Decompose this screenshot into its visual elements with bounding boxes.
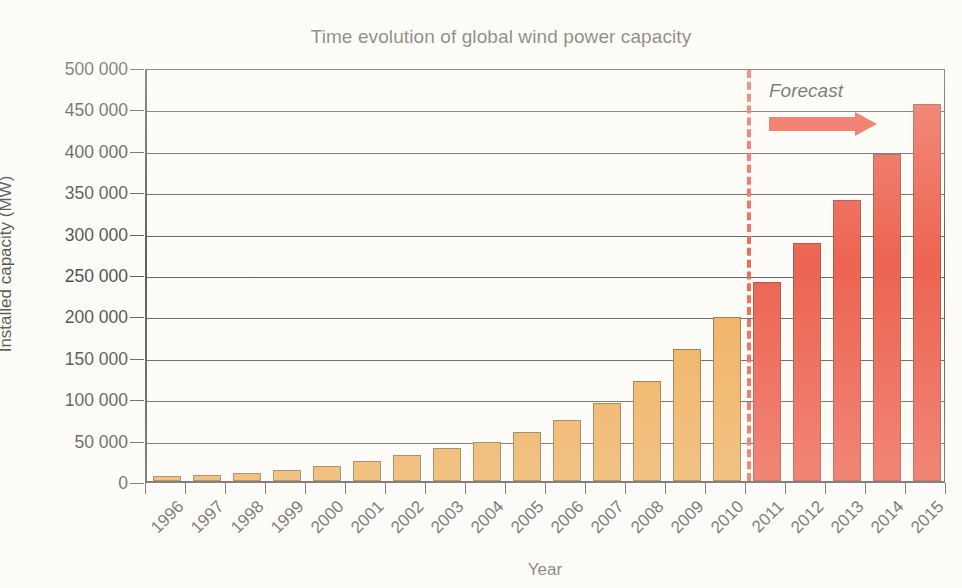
y-axis-tick-label: 100 000 <box>65 390 128 411</box>
x-axis-tick-label-1999: 1999 <box>267 497 308 538</box>
bar-1997 <box>193 475 221 481</box>
bar-1996 <box>153 476 181 481</box>
x-axis-tick-label-2011: 2011 <box>748 497 788 537</box>
plot-area: Forecast <box>145 69 945 483</box>
forecast-divider-line <box>747 70 751 481</box>
x-axis-tick-label-1998: 1998 <box>227 497 268 538</box>
x-axis-tick-label-2014: 2014 <box>867 497 908 538</box>
forecast-arrow-icon <box>769 112 877 136</box>
y-axis-tick-mark <box>130 442 144 443</box>
x-axis-tick-mark <box>145 483 146 494</box>
x-axis-tick-label-2012: 2012 <box>787 497 828 538</box>
x-axis-tick-label-2005: 2005 <box>507 497 548 538</box>
x-axis-tick-mark <box>905 483 906 494</box>
x-axis-tick-mark <box>505 483 506 494</box>
x-axis-tick-mark <box>545 483 546 494</box>
y-axis-tick-mark <box>130 110 144 111</box>
y-axis-tick-mark <box>130 400 144 401</box>
x-axis-tick-label-2013: 2013 <box>827 497 868 538</box>
y-axis-tick-label: 450 000 <box>65 100 128 121</box>
bar-2014 <box>873 154 901 481</box>
bar-2003 <box>433 448 461 481</box>
x-axis-tick-label-2000: 2000 <box>307 497 348 538</box>
x-axis-tick-label-2008: 2008 <box>627 497 668 538</box>
y-axis-tick-label: 300 000 <box>65 224 128 245</box>
x-axis-tick-label-2010: 2010 <box>707 497 748 538</box>
x-axis-tick-mark <box>305 483 306 494</box>
y-axis-tick-label: 500 000 <box>65 59 128 80</box>
y-axis-tick-mark <box>130 359 144 360</box>
x-axis-tick-label-2001: 2001 <box>347 497 388 538</box>
forecast-label: Forecast <box>769 80 843 102</box>
bar-2005 <box>513 432 541 481</box>
chart-title: Time evolution of global wind power capa… <box>0 26 962 48</box>
x-axis-tick-mark <box>425 483 426 494</box>
y-axis-tick-label: 400 000 <box>65 141 128 162</box>
x-axis-tick-mark <box>785 483 786 494</box>
y-axis-tick-label: 0 <box>118 473 128 494</box>
x-axis-tick-mark <box>385 483 386 494</box>
y-axis-tick-mark <box>130 317 144 318</box>
x-axis-title: Year <box>145 560 945 580</box>
y-axis-tick-mark <box>130 483 144 484</box>
x-axis-tick-mark <box>185 483 186 494</box>
arrow-shaft <box>769 117 855 131</box>
bar-2007 <box>593 403 621 481</box>
x-axis-tick-label-2002: 2002 <box>387 497 428 538</box>
x-axis-tick-label-1996: 1996 <box>147 497 188 538</box>
bar-2010 <box>713 317 741 481</box>
bar-2006 <box>553 420 581 481</box>
y-axis-tick-mark <box>130 193 144 194</box>
y-axis-tick-mark <box>130 276 144 277</box>
y-axis-tick-mark <box>130 69 144 70</box>
x-axis-tick-label-2003: 2003 <box>427 497 468 538</box>
bar-2012 <box>793 243 821 481</box>
x-axis-tick-mark <box>865 483 866 494</box>
y-axis-tick-mark <box>130 152 144 153</box>
x-axis-tick-mark <box>465 483 466 494</box>
y-axis-tick-label: 200 000 <box>65 307 128 328</box>
bar-2011 <box>753 282 781 481</box>
x-axis-tick-mark <box>345 483 346 494</box>
y-axis-tick-label: 50 000 <box>74 431 128 452</box>
y-axis-tick-label: 350 000 <box>65 183 128 204</box>
x-axis-tick-mark <box>945 483 946 494</box>
y-axis-tick-mark <box>130 235 144 236</box>
bar-2008 <box>633 381 661 481</box>
x-axis-tick-label-1997: 1997 <box>187 497 228 538</box>
bar-2002 <box>393 455 421 481</box>
x-axis-tick-mark <box>745 483 746 494</box>
x-axis-tick-mark <box>225 483 226 494</box>
x-axis-tick-label-2007: 2007 <box>587 497 628 538</box>
bar-2000 <box>313 466 341 481</box>
bar-2004 <box>473 442 501 481</box>
x-axis-tick-mark <box>705 483 706 494</box>
bar-2013 <box>833 200 861 481</box>
x-axis-tick-mark <box>665 483 666 494</box>
y-axis-tick-group: 050 000100 000150 000200 000250 000300 0… <box>0 69 145 483</box>
chart-figure: Time evolution of global wind power capa… <box>0 0 962 588</box>
arrow-head <box>855 112 877 136</box>
x-axis-tick-mark <box>265 483 266 494</box>
x-axis-tick-label-2006: 2006 <box>547 497 588 538</box>
y-axis-tick-label: 250 000 <box>65 266 128 287</box>
x-axis-tick-label-2015: 2015 <box>907 497 948 538</box>
bar-2015 <box>913 104 941 481</box>
bar-1998 <box>233 473 261 481</box>
x-axis-tick-label-2009: 2009 <box>667 497 708 538</box>
bar-1999 <box>273 470 301 481</box>
x-axis-tick-mark <box>625 483 626 494</box>
bar-2001 <box>353 461 381 481</box>
x-axis-tick-mark <box>585 483 586 494</box>
x-axis-tick-mark <box>825 483 826 494</box>
x-axis-tick-label-2004: 2004 <box>467 497 508 538</box>
bar-2009 <box>673 349 701 481</box>
y-axis-tick-label: 150 000 <box>65 348 128 369</box>
